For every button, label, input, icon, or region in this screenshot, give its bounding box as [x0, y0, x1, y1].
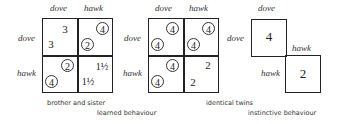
row-label-dove: dove: [18, 33, 35, 43]
payoff-dh-top-circled: 4: [96, 22, 109, 35]
payoff-hh-bottom: 1½: [81, 75, 95, 88]
row-label-hawk: hawk: [123, 68, 142, 78]
col-label-hawk: hawk: [292, 43, 311, 53]
col-label-dove: dove: [50, 3, 67, 13]
payoff-hd-top-circled: 4: [166, 59, 179, 72]
grid-divider-horizontal: [42, 55, 113, 57]
payoff-hd-top-circled: 2: [61, 59, 74, 72]
caption-instinctive-behaviour: instinctive behaviour: [248, 109, 316, 117]
caption-learned-behaviour: learned behaviour: [97, 109, 156, 117]
payoff-hh-bottom: 2: [186, 76, 200, 89]
payoff-dd-bottom: 3: [44, 38, 58, 51]
payoff-dh-top-circled: 4: [202, 22, 215, 35]
row-label-dove: dove: [227, 33, 244, 43]
payoff-hh: 2: [294, 67, 312, 80]
col-label-dove: dove: [258, 3, 275, 13]
payoff-hd-bottom-circled: 4: [45, 75, 58, 88]
row-label-hawk: hawk: [261, 68, 280, 78]
payoff-dd-top-circled: 4: [166, 22, 179, 35]
grid-divider-horizontal: [148, 55, 219, 57]
payoff-hh-top: 2: [201, 59, 215, 72]
payoff-hd-bottom-circled: 4: [151, 75, 164, 88]
payoff-hh-top: 1½: [95, 60, 109, 73]
payoff-dd-top: 3: [58, 23, 72, 36]
row-label-hawk: hawk: [17, 68, 36, 78]
payoff-dd: 4: [260, 30, 278, 43]
payoff-dd-bottom-circled: 4: [151, 38, 164, 51]
caption-brother-sister: brother and sister: [47, 99, 105, 107]
caption-identical-twins: identical twins: [206, 99, 253, 107]
payoff-dh-bottom-circled: 2: [81, 38, 94, 51]
col-label-dove: dove: [155, 3, 172, 13]
row-label-dove: dove: [124, 33, 141, 43]
col-label-hawk: hawk: [189, 3, 208, 13]
payoff-dh-bottom-circled: 4: [187, 38, 200, 51]
col-label-hawk: hawk: [84, 3, 103, 13]
